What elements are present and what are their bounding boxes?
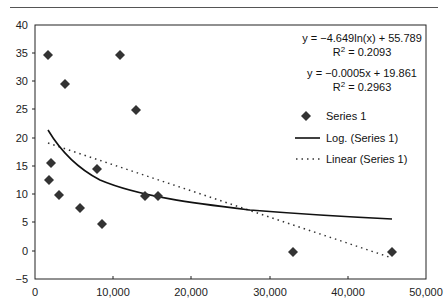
x-tick: 40,000	[331, 286, 365, 298]
data-point	[97, 219, 107, 229]
y-tick: 0	[22, 245, 28, 257]
x-tick: 50,000	[409, 286, 443, 298]
log-equation: y = −4.649ln(x) + 55.789	[302, 32, 422, 44]
linear-r-squared: R2 = 0.2963	[333, 80, 392, 93]
x-tick: 0	[32, 286, 38, 298]
legend-linear: Linear (Series 1)	[326, 153, 407, 165]
y-tick: 20	[16, 132, 28, 144]
y-tick: 25	[16, 103, 28, 115]
legend: Series 1 Log. (Series 1) Linear (Series …	[295, 110, 407, 165]
y-tick: 15	[16, 160, 28, 172]
plot-area	[35, 25, 426, 279]
scatter-chart: 40 35 30 25 20 15 10 5 0 −5 0 10,000 20,…	[0, 0, 445, 304]
data-point	[115, 50, 125, 60]
log-r-squared: R2 = 0.2093	[333, 45, 392, 58]
diamond-marker-icon	[301, 111, 311, 121]
y-tick: 10	[16, 188, 28, 200]
x-tick: 20,000	[174, 286, 208, 298]
data-point	[387, 247, 397, 257]
data-point	[92, 164, 102, 174]
linear-equation: y = −0.0005x + 19.861	[307, 67, 417, 79]
data-point	[43, 50, 53, 60]
data-point	[44, 175, 54, 185]
y-tick: 5	[22, 216, 28, 228]
y-axis: 40 35 30 25 20 15 10 5 0 −5	[15, 19, 35, 285]
y-tick: 30	[16, 75, 28, 87]
data-point	[46, 158, 56, 168]
x-tick: 30,000	[253, 286, 287, 298]
data-point	[131, 105, 141, 115]
y-tick: −5	[15, 273, 28, 285]
data-point	[288, 247, 298, 257]
trendline-equations: y = −4.649ln(x) + 55.789 R2 = 0.2093 y =…	[302, 32, 422, 93]
y-tick: 40	[16, 19, 28, 31]
legend-log: Log. (Series 1)	[326, 132, 398, 144]
x-tick: 10,000	[96, 286, 130, 298]
data-point	[60, 79, 70, 89]
data-point	[75, 203, 85, 213]
legend-series-1: Series 1	[326, 110, 366, 122]
data-point	[54, 190, 64, 200]
data-point	[153, 191, 163, 201]
y-tick: 35	[16, 47, 28, 59]
